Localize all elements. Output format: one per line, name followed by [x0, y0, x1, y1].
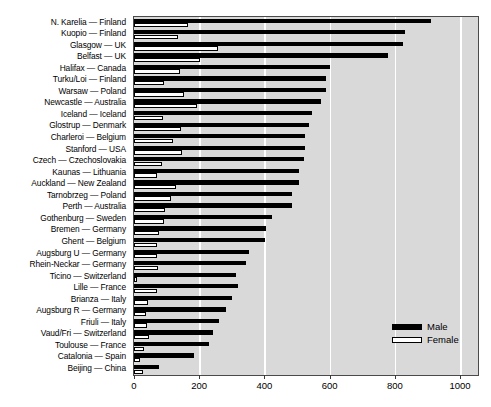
- bar-row: [134, 248, 478, 260]
- x-tick: [199, 375, 200, 379]
- category-label: Glostrup — Denmark: [0, 120, 130, 132]
- category-label: Rhein-Neckar — Germany: [0, 258, 130, 270]
- category-label: Warsaw — Poland: [0, 85, 130, 97]
- bar-female: [134, 347, 144, 351]
- bar-female: [134, 150, 182, 154]
- category-label: Augsburg R — Germany: [0, 305, 130, 317]
- x-tick-label: 200: [191, 380, 207, 391]
- bar-female: [134, 92, 184, 96]
- category-label: Perth — Australia: [0, 201, 130, 213]
- bar-row: [134, 132, 478, 144]
- bar-female: [134, 139, 173, 143]
- category-label: Augsburg U — Germany: [0, 247, 130, 259]
- category-label: Halifax — Canada: [0, 62, 130, 74]
- x-tick-label: 400: [256, 380, 272, 391]
- legend-item: Female: [392, 333, 476, 346]
- bar-male: [134, 296, 232, 300]
- x-tick-label: 0: [131, 380, 136, 391]
- bar-row: [134, 363, 478, 375]
- x-tick-label: 1000: [449, 380, 470, 391]
- legend: MaleFemale: [392, 320, 476, 346]
- bar-female: [134, 173, 157, 177]
- category-label: Ghent — Belgium: [0, 235, 130, 247]
- bar-female: [134, 289, 157, 293]
- category-label: Belfast — UK: [0, 51, 130, 63]
- category-label: Lille — France: [0, 282, 130, 294]
- category-label: Tarnobrzeg — Poland: [0, 189, 130, 201]
- category-label: Turku/Loi — Finland: [0, 74, 130, 86]
- bar-female: [134, 231, 159, 235]
- x-tick: [395, 375, 396, 379]
- category-label: Ticino — Switzerland: [0, 270, 130, 282]
- bar-row: [134, 213, 478, 225]
- bar-male: [134, 353, 194, 357]
- bar-female: [134, 243, 157, 247]
- bar-row: [134, 190, 478, 202]
- bar-row: [134, 167, 478, 179]
- legend-swatch-female: [392, 337, 422, 343]
- category-label: Catalonia — Spain: [0, 351, 130, 363]
- category-label: Charleroi — Belgium: [0, 131, 130, 143]
- bar-female: [134, 58, 200, 62]
- category-label: Friuli — Italy: [0, 316, 130, 328]
- category-label: Beijing — China: [0, 362, 130, 374]
- category-axis-labels: N. Karelia — FinlandKuopio — FinlandGlas…: [0, 16, 130, 374]
- x-tick: [264, 375, 265, 379]
- bar-female: [134, 69, 180, 73]
- bar-row: [134, 63, 478, 75]
- category-label: Stanford — USA: [0, 143, 130, 155]
- category-label: Vaud/Fri — Switzerland: [0, 328, 130, 340]
- bar-row: [134, 86, 478, 98]
- bar-female: [134, 219, 164, 223]
- bar-row: [134, 156, 478, 168]
- x-axis: 02004006008001000: [134, 375, 479, 401]
- bar-row: [134, 109, 478, 121]
- legend-item: Male: [392, 320, 476, 333]
- bar-female: [134, 300, 148, 304]
- bar-row: [134, 40, 478, 52]
- bar-female: [134, 185, 176, 189]
- category-label: Auckland — New Zealand: [0, 178, 130, 190]
- category-label: Bremen — Germany: [0, 224, 130, 236]
- bar-female: [134, 358, 140, 362]
- bar-female: [134, 323, 147, 327]
- bar-female: [134, 35, 178, 39]
- bar-row: [134, 52, 478, 64]
- category-label: Brianza — Italy: [0, 293, 130, 305]
- category-label: Newcastle — Australia: [0, 97, 130, 109]
- bar-male: [134, 307, 226, 311]
- bar-female: [134, 196, 171, 200]
- legend-label: Male: [427, 321, 448, 332]
- category-label: Czech — Czechoslovakia: [0, 155, 130, 167]
- bar-row: [134, 29, 478, 41]
- bar-female: [134, 23, 188, 27]
- bar-row: [134, 306, 478, 318]
- x-tick: [460, 375, 461, 379]
- bar-male: [134, 342, 209, 346]
- bar-female: [134, 370, 143, 374]
- legend-swatch-male: [392, 324, 422, 330]
- bar-row: [134, 17, 478, 29]
- bar-row: [134, 121, 478, 133]
- x-tick-label: 600: [322, 380, 338, 391]
- bar-male: [134, 169, 299, 173]
- category-label: Toulouse — France: [0, 339, 130, 351]
- bar-female: [134, 277, 137, 281]
- bar-female: [134, 335, 149, 339]
- x-tick: [330, 375, 331, 379]
- bar-row: [134, 352, 478, 364]
- bar-row: [134, 75, 478, 87]
- bar-row: [134, 144, 478, 156]
- bar-female: [134, 81, 164, 85]
- bar-female: [134, 312, 146, 316]
- x-tick-label: 800: [387, 380, 403, 391]
- legend-label: Female: [427, 334, 459, 345]
- bar-chart: N. Karelia — FinlandKuopio — FinlandGlas…: [0, 0, 491, 407]
- category-label: N. Karelia — Finland: [0, 16, 130, 28]
- bar-row: [134, 294, 478, 306]
- bar-row: [134, 259, 478, 271]
- x-tick: [134, 375, 135, 379]
- category-label: Gothenburg — Sweden: [0, 212, 130, 224]
- bar-row: [134, 98, 478, 110]
- category-label: Kaunas — Lithuania: [0, 166, 130, 178]
